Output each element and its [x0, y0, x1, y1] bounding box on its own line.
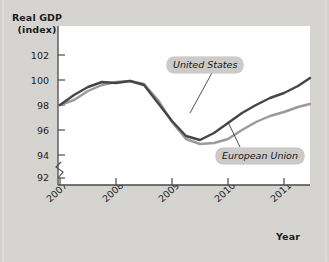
series-label-european-union: European Union: [216, 148, 304, 164]
chart-figure: Real GDP (index) Year 102 100 98 96 94 9…: [0, 0, 329, 262]
plot-area: [0, 0, 329, 262]
series-label-united-states: United States: [167, 57, 243, 73]
